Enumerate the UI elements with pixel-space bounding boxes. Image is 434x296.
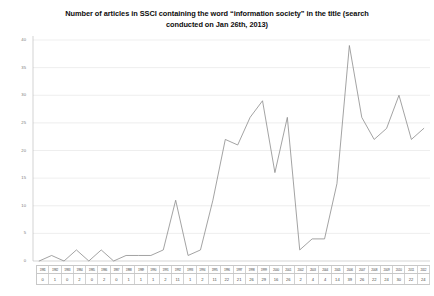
x-axis-value-row: 0102020111211121122212629162624414392622… — [36, 274, 430, 285]
x-axis-value-cell: 11 — [172, 274, 184, 284]
x-axis-value-cell: 0 — [86, 274, 98, 284]
x-axis-year-cell: 1990 — [148, 266, 160, 273]
x-axis-value-cell: 11 — [209, 274, 221, 284]
x-axis-value-cell: 26 — [356, 274, 368, 284]
x-axis-year-cell: 1986 — [98, 266, 110, 273]
x-axis-year-cell: 1984 — [74, 266, 86, 273]
x-axis-value-cell: 2 — [160, 274, 172, 284]
x-axis-value-cell: 24 — [418, 274, 430, 284]
data-series-line — [39, 46, 424, 261]
x-axis-year-cell: 2002 — [295, 266, 307, 273]
x-axis-value-cell: 1 — [184, 274, 196, 284]
x-axis-year-cell: 1996 — [221, 266, 233, 273]
x-axis-value-cell: 1 — [135, 274, 147, 284]
x-axis-value-cell: 0 — [62, 274, 74, 284]
x-axis-value-cell: 16 — [270, 274, 282, 284]
x-axis-year-cell: 2000 — [270, 266, 282, 273]
x-axis-year-cell: 2004 — [319, 266, 331, 273]
x-axis-value-cell: 24 — [381, 274, 393, 284]
x-axis-year-cell: 1985 — [86, 266, 98, 273]
x-axis-year-cell: 2009 — [381, 266, 393, 273]
x-axis-year-cell: 1982 — [49, 266, 61, 273]
chart-figure: Number of articles in SSCI containing th… — [0, 0, 434, 296]
chart-title-line-2: conducted on Jan 26th, 2013) — [30, 19, 404, 30]
x-axis-value-cell: 2 — [197, 274, 209, 284]
x-axis-value-cell: 22 — [221, 274, 233, 284]
x-axis-year-cell: 1999 — [258, 266, 270, 273]
x-axis-year-cell: 2001 — [283, 266, 295, 273]
x-axis-value-cell: 4 — [307, 274, 319, 284]
x-axis-value-cell: 22 — [405, 274, 417, 284]
x-axis-value-cell: 2 — [98, 274, 110, 284]
gridlines — [33, 40, 430, 261]
x-axis-value-cell: 2 — [74, 274, 86, 284]
x-axis-data-table: 1981198219831984198519861987198819891990… — [36, 265, 430, 289]
x-axis-year-cell: 2008 — [369, 266, 381, 273]
x-axis-year-row: 1981198219831984198519861987198819891990… — [36, 265, 430, 274]
x-axis-value-cell: 1 — [123, 274, 135, 284]
x-axis-value-cell: 0 — [111, 274, 123, 284]
chart-title-line-1: Number of articles in SSCI containing th… — [30, 8, 404, 19]
x-axis-year-cell: 1988 — [123, 266, 135, 273]
x-axis-year-cell: 2011 — [405, 266, 417, 273]
x-axis-year-cell: 1998 — [246, 266, 258, 273]
x-axis-year-cell: 1993 — [184, 266, 196, 273]
x-axis-year-cell: 1983 — [62, 266, 74, 273]
x-axis-year-cell: 2006 — [344, 266, 356, 273]
x-axis-year-cell: 2003 — [307, 266, 319, 273]
x-axis-year-cell: 1992 — [172, 266, 184, 273]
x-axis-value-cell: 4 — [319, 274, 331, 284]
x-axis-year-cell: 2007 — [356, 266, 368, 273]
x-axis-year-cell: 2005 — [332, 266, 344, 273]
x-axis-value-cell: 26 — [246, 274, 258, 284]
x-axis-value-cell: 39 — [344, 274, 356, 284]
x-axis-year-cell: 1997 — [234, 266, 246, 273]
x-axis-year-cell: 1989 — [135, 266, 147, 273]
x-axis-value-cell: 21 — [234, 274, 246, 284]
chart-title: Number of articles in SSCI containing th… — [30, 8, 404, 30]
x-axis-value-cell: 0 — [36, 274, 49, 284]
x-axis-value-cell: 22 — [369, 274, 381, 284]
x-axis-year-cell: 1995 — [209, 266, 221, 273]
x-axis-year-cell: 1991 — [160, 266, 172, 273]
x-axis-year-cell: 1994 — [197, 266, 209, 273]
plot-area — [0, 36, 434, 268]
x-axis-value-cell: 1 — [49, 274, 61, 284]
x-axis-value-cell: 1 — [148, 274, 160, 284]
x-axis-value-cell: 2 — [295, 274, 307, 284]
x-axis-value-cell: 14 — [332, 274, 344, 284]
x-axis-value-cell: 26 — [283, 274, 295, 284]
x-axis-year-cell: 1987 — [111, 266, 123, 273]
x-axis-year-cell: 2012 — [418, 266, 430, 273]
x-axis-value-cell: 29 — [258, 274, 270, 284]
x-axis-year-cell: 2010 — [393, 266, 405, 273]
plot-svg — [0, 36, 434, 268]
x-axis-year-cell: 1981 — [36, 266, 49, 273]
x-axis-value-cell: 30 — [393, 274, 405, 284]
